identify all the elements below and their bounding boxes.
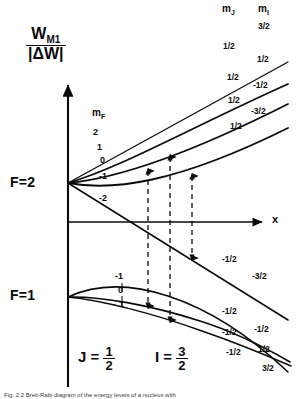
quantum-number-j-num: 1 (103, 345, 114, 358)
quantum-number-i-symbol: I (155, 348, 159, 365)
curve-label-u-mj-4: 1/2 (230, 122, 242, 131)
header-mj: mJ (222, 4, 235, 16)
curve-label-u-mj-1: 1/2 (223, 42, 235, 51)
header-mj-sub: J (231, 9, 235, 16)
mf-label-f1-m1: -1 (115, 272, 123, 281)
curve-label-l-mj-3: -1/2 (226, 348, 241, 357)
curve-label-l-mi-2: -1/2 (254, 325, 269, 334)
header-mf-sub: F (101, 113, 105, 120)
mf-label-2: 2 (93, 128, 98, 137)
quantum-number-j-den: 2 (103, 358, 114, 372)
figure-caption: Fig. 2.2 Breit-Rabi diagram of the energ… (4, 392, 176, 398)
mf-label-f1-0: 0 (118, 286, 123, 295)
y-axis-denominator: |ΔW| (26, 45, 66, 62)
curve-f2-mf1 (68, 84, 288, 183)
header-mi-sub: I (267, 9, 269, 16)
curve-label-u-mi-3-2: 3/2 (258, 22, 270, 31)
curve-label-l-mj-1: -1/2 (222, 307, 237, 316)
curve-label-u-mj-3: 1/2 (228, 96, 240, 105)
mf-label-m1: -1 (99, 172, 107, 181)
curve-label-l-mj-2: -1/2 (222, 328, 237, 337)
transition-arrows (148, 157, 192, 320)
curve-label-u-mi-m3-2: -3/2 (251, 107, 266, 116)
curve-label-mid-mj: -1/2 (222, 255, 237, 264)
quantum-number-j: J = 1 2 (78, 345, 115, 372)
level-label-f2: F=2 (10, 175, 35, 189)
mf-label-1: 1 (97, 143, 102, 152)
curve-label-u-mi-1-2: 1/2 (257, 55, 269, 64)
curve-label-u-mi-m1-2: -1/2 (253, 81, 268, 90)
quantum-number-i-den: 2 (176, 358, 187, 372)
y-axis-title: WM1 |ΔW| (26, 26, 66, 62)
header-mf: mF (92, 108, 105, 120)
curve-label-u-mj-2: 1/2 (227, 73, 239, 82)
f2-curve-group (68, 62, 288, 320)
curve-label-mid-mi: -3/2 (252, 272, 267, 281)
quantum-number-i: I = 3 2 (155, 345, 188, 372)
curve-label-l-mi-3: 1/2 (258, 345, 270, 354)
mf-label-0: 0 (100, 156, 105, 165)
quantum-number-i-num: 3 (176, 345, 187, 358)
header-mi: mI (258, 4, 269, 16)
mf-label-m2: -2 (99, 194, 107, 203)
breit-rabi-figure: WM1 |ΔW| x mJ mI mF F=2 F=1 2 1 0 -1 -2 … (0, 0, 296, 399)
level-label-f1: F=1 (10, 288, 35, 302)
curve-label-l-mi-4: 3/2 (262, 364, 274, 373)
y-axis-numerator: WM1 (26, 26, 66, 45)
mf-label-f1-1: 1 (119, 300, 124, 309)
quantum-number-j-symbol: J (78, 348, 86, 365)
y-axis-numerator-sub: M1 (46, 34, 60, 45)
x-axis-label: x (272, 214, 278, 225)
